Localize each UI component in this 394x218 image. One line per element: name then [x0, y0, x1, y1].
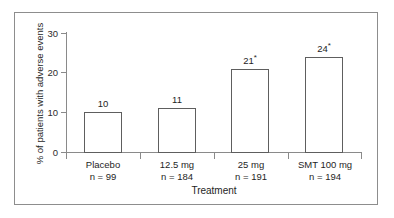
bar-value-12-5-mg: 11 — [158, 95, 196, 105]
bar-placebo[interactable] — [84, 112, 122, 153]
x-category-label-12-5-mg: 12.5 mg n = 184 — [140, 159, 214, 183]
bar-value-placebo: 10 — [84, 99, 122, 109]
y-tick-20 — [61, 72, 66, 73]
x-category-n-placebo: n = 99 — [66, 171, 140, 183]
y-tick-10 — [61, 112, 66, 113]
bar-chart-plot-area: 0 10 20 30 10 11 21* 24* Placebo n = 99 … — [0, 0, 394, 218]
x-category-n-25-mg: n = 191 — [214, 171, 288, 183]
bar-value-smt-100-mg: 24* — [305, 44, 343, 54]
y-tick-30 — [61, 33, 66, 34]
x-category-name-placebo: Placebo — [86, 159, 120, 170]
bar-25-mg[interactable] — [231, 69, 269, 153]
x-axis-title: Treatment — [66, 185, 362, 196]
significance-asterisk-smt-100-mg: * — [328, 41, 331, 50]
bar-smt-100-mg[interactable] — [305, 57, 343, 153]
bar-value-smt-100-mg-number: 24 — [317, 43, 328, 54]
x-category-label-smt-100-mg: SMT 100 mg n = 194 — [288, 159, 362, 183]
x-category-name-smt-100-mg: SMT 100 mg — [298, 159, 352, 170]
bar-value-25-mg-number: 21 — [243, 55, 254, 66]
x-category-name-12-5-mg: 12.5 mg — [160, 159, 194, 170]
significance-asterisk-25-mg: * — [254, 53, 257, 62]
x-category-n-12-5-mg: n = 184 — [140, 171, 214, 183]
y-axis-line — [66, 32, 67, 153]
x-category-label-25-mg: 25 mg n = 191 — [214, 159, 288, 183]
bar-value-25-mg: 21* — [231, 56, 269, 66]
x-category-n-smt-100-mg: n = 194 — [288, 171, 362, 183]
x-category-label-placebo: Placebo n = 99 — [66, 159, 140, 183]
x-category-name-25-mg: 25 mg — [238, 159, 264, 170]
y-axis-title: % of patients with adverse events — [34, 19, 45, 169]
bar-12-5-mg[interactable] — [158, 108, 196, 153]
